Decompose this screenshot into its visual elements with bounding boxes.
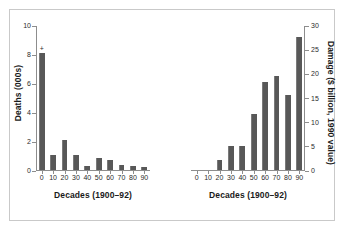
x-tick-label-deaths-20: 20 [61,174,69,181]
y-tick-damage-20 [305,74,309,75]
plot-area-deaths: 02468100+102030405060708090 [36,26,150,171]
y-tick-label-damage-0: 0 [311,167,315,174]
bar-deaths-20 [62,140,68,170]
y-tick-label-damage-5: 5 [311,143,315,150]
x-tick-label-deaths-0: 0 [40,174,44,181]
x-tick-label-deaths-30: 30 [72,174,80,181]
y-tick-deaths-10 [32,26,36,27]
x-tick-label-damage-0: 0 [195,174,199,181]
y-tick-deaths-2 [32,142,36,143]
x-axis-title-left: Decades (1900–92) [28,190,158,200]
y-tick-label-deaths-8: 8 [27,51,31,58]
y-tick-damage-25 [305,50,309,51]
y-tick-damage-0 [305,171,309,172]
chart-panel-deaths: 02468100+102030405060708090 [36,26,150,171]
bar-damage-90 [296,37,302,170]
x-axis-title-right: Decades (1900–92) [183,190,313,200]
bar-damage-50 [251,114,257,170]
x-tick-label-damage-30: 30 [227,174,235,181]
bar-deaths-90 [141,167,147,170]
y-tick-deaths-6 [32,84,36,85]
bar-deaths-0 [39,53,45,170]
x-tick-label-deaths-70: 70 [118,174,126,181]
y-tick-damage-5 [305,146,309,147]
y-tick-label-deaths-10: 10 [23,22,31,29]
bar-deaths-40 [84,166,90,170]
bar-damage-20 [217,160,223,170]
x-tick-label-damage-10: 10 [204,174,212,181]
x-tick-label-damage-70: 70 [273,174,281,181]
x-tick-label-damage-50: 50 [250,174,258,181]
bar-deaths-30 [73,155,79,170]
x-tick-label-deaths-80: 80 [129,174,137,181]
chart-panel-damage: 0510152025300102030405060708090 [191,26,305,171]
bar-deaths-70 [119,165,125,170]
x-tick-label-deaths-50: 50 [95,174,103,181]
bar-damage-40 [239,146,245,170]
y-tick-label-deaths-6: 6 [27,80,31,87]
x-tick-label-damage-90: 90 [295,174,303,181]
bar-damage-30 [228,146,234,170]
y-tick-label-damage-10: 10 [311,119,319,126]
y-tick-label-deaths-0: 0 [27,167,31,174]
bar-damage-80 [285,95,291,170]
y-axis-title-right: Damage ($ billion, 1990 value) [326,23,336,183]
x-tick-label-damage-20: 20 [216,174,224,181]
y-tick-deaths-4 [32,113,36,114]
x-tick-label-damage-80: 80 [284,174,292,181]
x-tick-label-damage-60: 60 [261,174,269,181]
x-tick-label-deaths-10: 10 [49,174,57,181]
y-tick-label-damage-30: 30 [311,22,319,29]
y-tick-label-damage-20: 20 [311,70,319,77]
bar-damage-60 [262,82,268,170]
x-tick-label-deaths-40: 40 [83,174,91,181]
x-tick-label-damage-40: 40 [238,174,246,181]
x-tick-label-deaths-60: 60 [106,174,114,181]
bar-deaths-10 [50,155,56,170]
bar-deaths-60 [107,160,113,170]
y-tick-deaths-0 [32,171,36,172]
y-tick-label-damage-25: 25 [311,46,319,53]
y-tick-damage-10 [305,122,309,123]
y-tick-label-damage-15: 15 [311,95,319,102]
y-tick-label-deaths-2: 2 [27,138,31,145]
y-tick-damage-15 [305,98,309,99]
plot-area-damage: 0510152025300102030405060708090 [191,26,305,171]
figure: 02468100+102030405060708090 Deaths (000s… [0,0,344,230]
bar-deaths-50 [96,158,102,170]
bar-annotation-deaths-0: + [40,45,44,52]
x-tick-label-deaths-90: 90 [140,174,148,181]
y-tick-deaths-8 [32,55,36,56]
y-axis-title-left: Deaths (000s) [13,33,23,153]
bar-damage-70 [274,76,280,170]
y-tick-label-deaths-4: 4 [27,109,31,116]
bar-deaths-80 [130,166,136,170]
y-tick-damage-30 [305,26,309,27]
y-axis-line-left [36,26,37,171]
